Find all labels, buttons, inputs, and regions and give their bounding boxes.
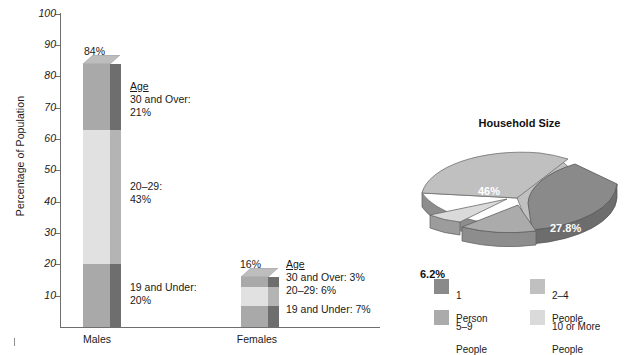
bar-chart: Percentage of Population 100 90 80 70 60… — [0, 0, 400, 351]
y-tick-label: 10 — [22, 289, 56, 301]
y-tick-60: 60 — [0, 139, 56, 140]
females-bar-side-face — [268, 277, 279, 327]
males-seg-30-and-over[interactable] — [83, 64, 110, 130]
legend-label-line1: 10 or More — [552, 321, 600, 332]
legend-item-10-or-more-people[interactable]: 10 or More People — [530, 309, 600, 355]
legend-label-10-or-more-people: 10 or More People — [552, 309, 600, 355]
y-tick-label: 80 — [22, 69, 56, 81]
y-tick-label: 90 — [22, 38, 56, 50]
females-annot-line1: 30 and Over: 3% — [286, 271, 371, 284]
males-bar-side-face — [110, 64, 121, 327]
y-tick-label: 70 — [22, 101, 56, 113]
females-annotation: Age 30 and Over: 3% 20–29: 6% 19 and Und… — [286, 258, 371, 316]
legend-swatch-1-person — [434, 279, 449, 294]
legend-item-5-9-people[interactable]: 5–9 People — [434, 309, 487, 355]
males-annot-header: Age — [130, 80, 191, 93]
males-annot-mid-line1: 20–29: — [130, 180, 162, 193]
females-total-label: 16% — [240, 258, 261, 270]
females-seg-19-and-under[interactable] — [241, 306, 268, 327]
legend-label-line1: 5–9 — [456, 321, 473, 332]
females-side-seg-30over — [268, 277, 279, 287]
y-tick-label: 30 — [22, 226, 56, 238]
y-tick-80: 80 — [0, 76, 56, 77]
y-tick-20: 20 — [0, 264, 56, 265]
y-tick-90: 90 — [0, 45, 56, 46]
legend-label-line1: 2–4 — [552, 290, 569, 301]
females-side-seg-2029 — [268, 287, 279, 306]
pie-chart-title: Household Size — [410, 117, 629, 129]
legend-label-line1: 1 — [456, 290, 462, 301]
females-seg-30-and-over[interactable] — [241, 277, 268, 287]
females-side-seg-19under — [268, 306, 279, 327]
y-tick-30: 30 — [0, 233, 56, 234]
legend-swatch-2-4-people — [530, 279, 545, 294]
females-category-label: Females — [222, 333, 292, 345]
males-side-seg-19under — [110, 264, 121, 327]
males-bar[interactable] — [83, 64, 110, 327]
males-category-label: Males — [62, 333, 132, 345]
males-annot-top-line2: 21% — [130, 106, 191, 119]
males-total-label: 84% — [84, 45, 105, 57]
pie-chart: Household Size 46% 27.8% 20.1% 6.2 — [410, 0, 629, 351]
legend-label-line2: People — [552, 344, 583, 355]
males-annotation-20-29: 20–29: 43% — [130, 180, 162, 206]
females-bar[interactable] — [241, 277, 268, 327]
males-annot-bot-line2: 20% — [130, 294, 197, 307]
legend-swatch-10-or-more-people — [530, 310, 545, 325]
legend-swatch-5-9-people — [434, 310, 449, 325]
legend-label-5-9-people: 5–9 People — [456, 309, 487, 355]
females-annot-line3: 19 and Under: 7% — [286, 303, 371, 316]
males-seg-20-29[interactable] — [83, 130, 110, 264]
y-tick-label: 50 — [22, 163, 56, 175]
males-seg-19-and-under[interactable] — [83, 264, 110, 327]
females-annot-header: Age — [286, 258, 371, 271]
y-tick-40: 40 — [0, 202, 56, 203]
females-annot-line2: 20–29: 6% — [286, 284, 371, 297]
males-annotation-30-and-over: Age 30 and Over: 21% — [130, 80, 191, 119]
y-tick-label: 100 — [22, 7, 56, 19]
males-annot-top-line1: 30 and Over: — [130, 93, 191, 106]
pie-pct-5-9-people: 20.1% — [503, 250, 534, 262]
y-tick-label: 20 — [22, 257, 56, 269]
y-tick-50: 50 — [0, 170, 56, 171]
y-tick-label: 40 — [22, 195, 56, 207]
males-annot-bot-line1: 19 and Under: — [130, 281, 197, 294]
corner-tick-mark — [14, 338, 15, 346]
legend-label-line2: People — [456, 344, 487, 355]
pie-pct-2-4-people: 46% — [478, 185, 500, 197]
y-tick-10: 10 — [0, 296, 56, 297]
females-seg-20-29[interactable] — [241, 287, 268, 306]
y-tick-label: 60 — [22, 132, 56, 144]
males-side-seg-30over — [110, 64, 121, 130]
x-axis-line — [60, 327, 380, 328]
males-annot-mid-line2: 43% — [130, 193, 162, 206]
y-tick-100: 100 — [0, 14, 56, 15]
pie-chart-graphic — [410, 135, 629, 265]
y-tick-70: 70 — [0, 108, 56, 109]
males-side-seg-2029 — [110, 130, 121, 264]
males-annotation-19-and-under: 19 and Under: 20% — [130, 281, 197, 307]
pie-pct-1-person: 27.8% — [550, 222, 581, 234]
